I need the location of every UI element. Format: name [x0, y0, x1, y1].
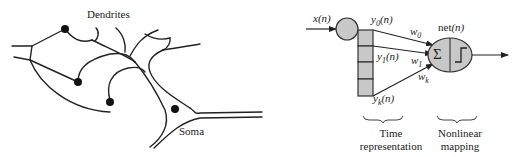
biological-neuron	[12, 28, 262, 148]
sigma-symbol: Σ	[433, 47, 442, 62]
synapse-terminals	[61, 25, 179, 113]
soma-nucleus	[171, 105, 179, 113]
caption-nonlinear-mapping: Nonlinear mapping	[430, 127, 490, 153]
synapse-dot	[106, 98, 114, 106]
label-input: x(n)	[313, 13, 331, 24]
label-net: net(n)	[438, 22, 464, 33]
label-weight-k: wk	[418, 71, 429, 85]
label-weight-1: w1	[411, 55, 422, 69]
delay-line	[358, 30, 373, 96]
synapse-dot	[61, 25, 69, 33]
brace-nonlinear	[437, 116, 477, 123]
label-weight-0: w0	[410, 26, 421, 40]
label-tap-0: y0(n)	[371, 14, 393, 28]
weight-arrow-0	[373, 30, 433, 45]
caption-time-representation: Time representation	[346, 127, 436, 153]
synapse-dot	[74, 78, 82, 86]
label-tap-k: yk(n)	[373, 93, 394, 107]
artificial-neuron	[306, 18, 508, 123]
input-node	[336, 18, 358, 40]
brace-time	[363, 116, 403, 123]
label-soma: Soma	[179, 126, 204, 137]
label-dendrites: Dendrites	[87, 9, 130, 20]
label-tap-1: y1(n)	[377, 51, 399, 65]
